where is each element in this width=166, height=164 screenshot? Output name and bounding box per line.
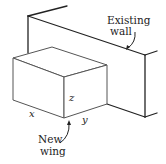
diagram-new-wing-against-wall: Existing wall New wing x y z <box>0 0 166 164</box>
dimension-x-label: x <box>29 108 35 119</box>
dimension-y-label: y <box>81 114 88 125</box>
wall-bottom-edge <box>107 104 145 117</box>
new-wing-label-line1: New <box>38 133 62 145</box>
wall-top-left-stub <box>28 6 67 16</box>
wing-arrowhead-icon <box>67 120 71 125</box>
dimension-z-label: z <box>68 92 75 103</box>
existing-wall-label-line2: wall <box>110 25 133 37</box>
new-wing-label-line2: wing <box>40 145 66 157</box>
new-wing-box <box>13 47 107 118</box>
wall-top-right-stub <box>145 51 157 55</box>
wall-bottom-right-stub <box>145 113 157 117</box>
